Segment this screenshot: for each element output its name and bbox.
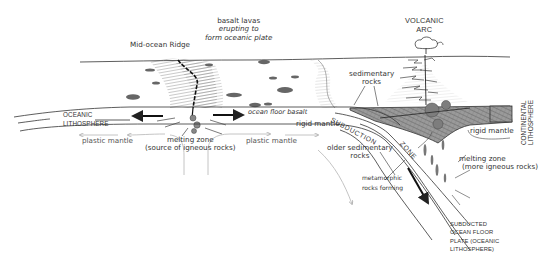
label-mid-ocean-ridge: Mid-ocean Ridge — [130, 41, 190, 49]
label-metamorphic: metamorphic rocks forming — [362, 175, 403, 192]
mid-ocean-ridge — [150, 58, 223, 133]
label-subducted-plate: SUBDUCTED OCEAN FLOOR PLATE (OCEANIC LIT… — [450, 220, 499, 254]
label-oceanic-lithosphere: OCEANIC LITHOSPHERE — [63, 111, 109, 127]
label-melting-zone-arc: melting zone (more igneous rocks) — [459, 155, 538, 172]
label-continental-lithosphere: CONTINENTAL LITHOSPHERE — [520, 100, 534, 145]
label-line: PLATE (OCEANIC — [450, 237, 499, 245]
label-line: OCEANIC — [63, 111, 109, 118]
continental-wedge — [350, 101, 512, 144]
label-line: OCEAN FLOOR — [450, 228, 499, 236]
label-line: (more igneous rocks) — [459, 163, 538, 171]
label-ocean-floor-basalt: ocean floor basalt — [248, 109, 307, 117]
label-basalt-lavas: basalt lavas erupting to form oceanic pl… — [205, 17, 272, 42]
label-line: LITHOSPHERE — [63, 120, 109, 127]
label-melting-zone-ridge: melting zone (source of igneous rocks) — [145, 136, 236, 153]
label-plastic-mantle-left: plastic mantle — [82, 137, 133, 145]
label-line: rocks — [327, 152, 393, 160]
fracture-hatch — [310, 60, 338, 108]
label-line: (source of igneous rocks) — [145, 144, 236, 152]
label-older-sedimentary: older sedimentary rocks — [327, 144, 393, 161]
label-line: LITHOSPHERE) — [450, 245, 499, 253]
label-line: rocks forming — [362, 185, 403, 192]
label-line: SUBDUCTED — [450, 220, 499, 228]
label-rigid-mantle-right: rigid mantle — [470, 127, 514, 135]
label-line: form oceanic plate — [205, 34, 272, 42]
volcanic-arc — [385, 37, 470, 105]
label-volcanic-arc: VOLCANIC ARC — [405, 17, 444, 34]
label-line: CONTINENTAL — [520, 100, 527, 145]
sea-surface — [80, 56, 510, 62]
label-sedimentary-rocks: sedimentary rocks — [349, 70, 394, 87]
label-line: metamorphic — [362, 175, 403, 182]
label-line: LITHOSPHERE — [527, 100, 534, 145]
label-plastic-mantle-mid: plastic mantle — [246, 137, 297, 145]
sedimentary-pointers — [354, 86, 378, 106]
label-line: rocks — [349, 78, 394, 86]
label-line: ARC — [405, 26, 444, 35]
